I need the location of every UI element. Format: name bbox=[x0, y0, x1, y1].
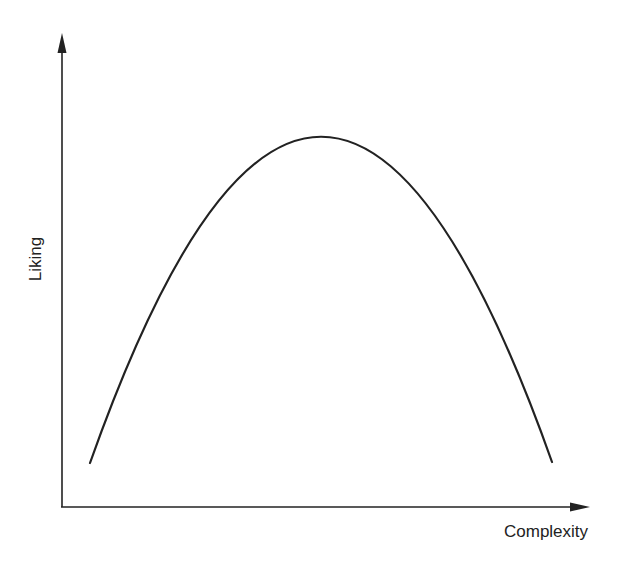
y-axis-label: Liking bbox=[26, 237, 46, 281]
x-axis-arrow-icon bbox=[570, 503, 590, 512]
x-axis-label: Complexity bbox=[504, 522, 588, 542]
y-axis-arrow-icon bbox=[58, 33, 67, 53]
liking-curve bbox=[90, 137, 552, 463]
chart-canvas bbox=[0, 0, 626, 568]
